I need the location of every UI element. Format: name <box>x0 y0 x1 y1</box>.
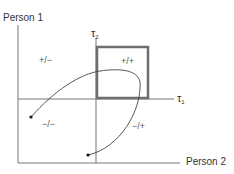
person2-label: Person 2 <box>186 157 226 167</box>
quadrant-bottom-left-label: −/− <box>42 120 55 129</box>
tau2-subscript: 2 <box>95 34 98 40</box>
person1-label: Person 1 <box>3 13 43 23</box>
trajectory-curve <box>31 70 140 155</box>
tau1-subscript: 1 <box>181 99 184 105</box>
tau1-label: τ1 <box>177 93 185 105</box>
tau2-label: τ2 <box>91 28 99 40</box>
trajectory-start-dot <box>29 115 32 118</box>
quadrant-top-right-label: +/+ <box>121 57 134 66</box>
trajectory-end-dot <box>86 153 89 156</box>
diagram-canvas <box>0 0 234 174</box>
quadrant-top-left-label: +/− <box>39 56 52 65</box>
quadrant-bottom-right-label: −/+ <box>132 122 145 131</box>
